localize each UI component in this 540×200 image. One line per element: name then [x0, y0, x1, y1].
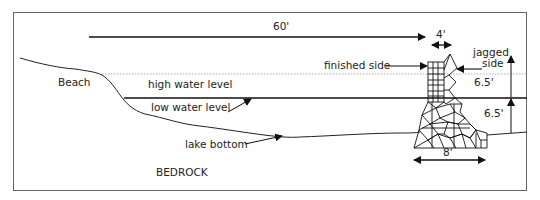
- lower-height-label: 6.5': [484, 107, 504, 119]
- top-width-label: 4': [436, 28, 446, 40]
- seawall-structure: [414, 54, 487, 148]
- low-water-pointer: [228, 99, 251, 112]
- lake-bottom-right: [487, 132, 527, 135]
- beach-label: Beach: [58, 76, 91, 88]
- low-water-label: low water level: [151, 101, 231, 113]
- bedrock-label: BEDROCK: [156, 166, 209, 178]
- lake-bottom-pointer: [245, 136, 282, 144]
- finished-side-label: finished side: [324, 59, 390, 71]
- high-water-label: high water level: [148, 78, 232, 90]
- lake-bottom-label: lake bottom: [185, 138, 248, 150]
- jagged-side-label-2: side: [482, 57, 504, 69]
- upper-height-label: 6.5': [474, 76, 494, 88]
- distance-label: 60': [273, 20, 289, 32]
- seawall-diagram: 60' 4' Beach high water level low water …: [0, 0, 540, 200]
